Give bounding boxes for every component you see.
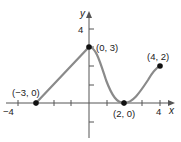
y-axis-arrow-icon <box>86 11 92 18</box>
y-axis-label: y <box>79 8 86 19</box>
graph-canvas: y x −4 4 4 (−3, 0) (0, 3) (2, 0) (4, 2) <box>0 0 181 142</box>
x-tick-label-4: 4 <box>156 106 161 117</box>
x-tick-label-neg4: −4 <box>3 106 14 117</box>
point-label-2-0: (2, 0) <box>113 108 135 119</box>
x-axis-label: x <box>168 105 175 116</box>
point-label-0-3: (0, 3) <box>96 42 118 53</box>
function-curve <box>36 47 160 103</box>
point-2-0 <box>121 100 127 106</box>
function-graph: y x −4 4 4 (−3, 0) (0, 3) (2, 0) (4, 2) <box>0 0 181 142</box>
y-ticks <box>89 29 94 122</box>
point-4-2 <box>157 63 163 69</box>
point-label-4-2: (4, 2) <box>147 51 169 62</box>
point-label-neg3-0: (−3, 0) <box>12 87 40 98</box>
y-tick-label-4: 4 <box>78 24 83 35</box>
point-neg3-0 <box>33 100 39 106</box>
point-0-3 <box>86 44 92 50</box>
